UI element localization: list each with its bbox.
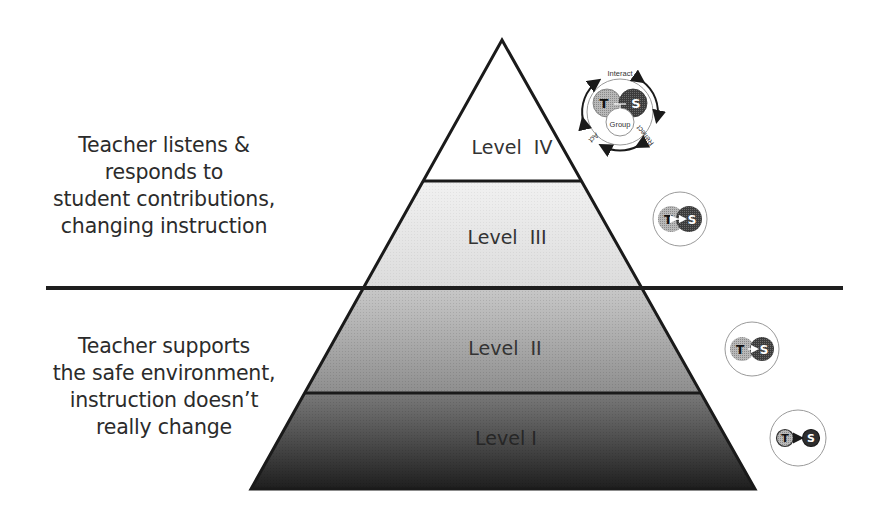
description-line: really change bbox=[36, 414, 292, 441]
level-i-label: Level I bbox=[475, 427, 537, 449]
pyramid bbox=[251, 40, 755, 489]
student-letter: S bbox=[807, 432, 815, 445]
description-line: the safe environment, bbox=[36, 360, 292, 387]
student-letter: S bbox=[760, 343, 769, 357]
description-line: instruction doesn’t bbox=[36, 387, 292, 414]
level-ii-label: Level II bbox=[468, 337, 541, 359]
student-letter: S bbox=[631, 96, 640, 111]
description-line: responds to bbox=[44, 159, 284, 186]
description-line: Teacher listens & bbox=[44, 132, 284, 159]
description-line: changing instruction bbox=[44, 213, 284, 240]
description-line: Teacher supports bbox=[36, 333, 292, 360]
teacher-letter: T bbox=[781, 432, 789, 445]
teacher-letter: T bbox=[664, 213, 673, 227]
interact-label: Interact bbox=[607, 69, 633, 78]
teacher-letter: T bbox=[736, 343, 745, 357]
teacher-letter: T bbox=[600, 96, 609, 111]
level-iv-label: Level IV bbox=[472, 136, 553, 158]
upper-levels-description: Teacher listens & responds to student co… bbox=[44, 132, 284, 240]
lower-levels-description: Teacher supports the safe environment, i… bbox=[36, 333, 292, 441]
group-label: Group bbox=[610, 120, 631, 129]
level-ii-interaction-icon: T S bbox=[725, 322, 779, 376]
level-iv-interaction-icon: T S Group Interact Reflect Act bbox=[582, 69, 658, 151]
level-iv-band bbox=[423, 40, 581, 181]
description-line: student contributions, bbox=[44, 186, 284, 213]
pyramid-diagram: Level IV Level III Level II Level I T S … bbox=[0, 0, 886, 520]
level-iii-interaction-icon: T S bbox=[653, 192, 707, 246]
level-i-interaction-icon: T S bbox=[770, 410, 826, 466]
level-iii-label: Level III bbox=[467, 226, 546, 248]
student-letter: S bbox=[688, 213, 697, 227]
